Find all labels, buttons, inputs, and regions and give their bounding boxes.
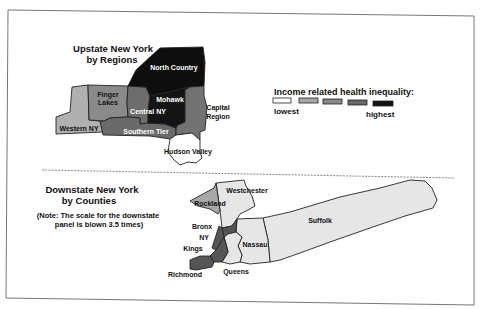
legend-swatch-2 bbox=[299, 98, 318, 103]
label-capital-1: Capital bbox=[206, 104, 229, 112]
label-kings: Kings bbox=[183, 245, 203, 253]
legend-swatch-5 bbox=[373, 101, 393, 106]
label-rockland: Rockland bbox=[194, 200, 226, 207]
legend-swatch-3 bbox=[323, 99, 342, 104]
downstate-note-line2: panel is blown 3.5 times) bbox=[55, 220, 144, 229]
label-queens: Queens bbox=[223, 268, 249, 276]
label-north-country: North Country bbox=[150, 64, 198, 72]
label-suffolk: Suffolk bbox=[308, 217, 332, 224]
figure-canvas: Upstate New York by Regions North Countr… bbox=[0, 0, 480, 309]
legend-low-label: lowest bbox=[274, 107, 299, 116]
label-nassau: Nassau bbox=[243, 241, 268, 248]
label-finger-lakes-1: Finger bbox=[97, 91, 119, 99]
county-richmond bbox=[190, 256, 214, 270]
downstate-title-line2: by Counties bbox=[62, 195, 116, 206]
downstate-title-line1: Downstate New York bbox=[45, 184, 139, 195]
county-rockland bbox=[190, 183, 220, 214]
label-central-ny: Central NY bbox=[130, 108, 166, 115]
panel-divider bbox=[42, 170, 455, 178]
legend-high-label: highest bbox=[366, 110, 395, 119]
label-western-ny: Western NY bbox=[59, 125, 98, 132]
legend-title: Income related health inequality: bbox=[274, 87, 414, 97]
label-finger-lakes-2: Lakes bbox=[98, 99, 118, 106]
label-hudson-valley: Hudson Valley bbox=[164, 148, 212, 156]
legend: Income related health inequality: lowest… bbox=[273, 87, 414, 119]
label-bronx: Bronx bbox=[192, 223, 212, 230]
legend-swatch-1 bbox=[273, 98, 291, 103]
county-suffolk bbox=[263, 180, 437, 262]
label-ny: NY bbox=[199, 234, 209, 241]
upstate-title-line1: Upstate New York bbox=[73, 43, 154, 54]
downstate-note-line1: (Note: The scale for the downstate bbox=[37, 211, 160, 220]
label-richmond: Richmond bbox=[168, 271, 202, 278]
label-westchester: Westchester bbox=[226, 187, 268, 194]
legend-swatch-4 bbox=[348, 100, 367, 105]
upstate-title-line2: by Regions bbox=[86, 54, 137, 65]
label-southern-tier: Southern Tier bbox=[123, 128, 169, 135]
label-capital-2: Region bbox=[206, 113, 230, 121]
label-mohawk: Mohawk bbox=[156, 96, 184, 103]
